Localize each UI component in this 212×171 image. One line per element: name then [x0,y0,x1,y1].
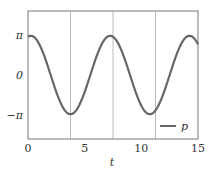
y-tick-label: −π [7,109,24,122]
x-tick-label: 10 [134,142,148,155]
x-tick-label: 5 [81,142,88,155]
x-tick-label: 0 [25,142,32,155]
ticks: 051015π0−π [7,29,205,155]
legend: p [160,120,188,133]
y-tick-label: 0 [16,69,23,82]
x-axis-label: t [110,156,115,169]
y-tick-label: π [15,29,24,42]
legend-label: p [181,120,188,133]
x-tick-label: 15 [191,142,205,155]
chart: 051015π0−π p t [0,0,212,171]
vertical-lines [71,11,156,139]
